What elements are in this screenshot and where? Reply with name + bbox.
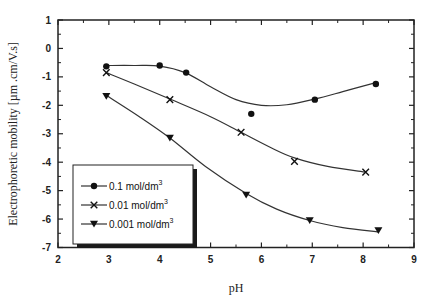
legend-label-superscript: 3 [164,198,168,205]
y-tick-label: -3 [42,128,51,139]
x-axis-title: pH [229,281,244,295]
x-tick-label: 9 [411,254,417,265]
x-marker-icon [103,69,110,76]
circle-marker-icon [103,63,109,69]
circle-marker-icon [91,183,97,189]
fit-curve [106,73,365,173]
circle-marker-icon [183,69,189,75]
x-tick-label: 8 [360,254,366,265]
y-tick-label: 1 [45,15,51,26]
x-tick-label: 5 [208,254,214,265]
series-0 [103,62,379,117]
x-marker-icon [291,158,298,165]
y-tick-label: -1 [42,71,51,82]
circle-marker-icon [157,62,163,68]
legend-label: 0.001 mol/dm3 [109,217,174,230]
circle-marker-icon [373,81,379,87]
y-tick-label: -5 [42,185,51,196]
y-tick-label: -6 [42,214,51,225]
legend-label: 0.1 mol/dm3 [109,179,162,192]
x-tick-label: 2 [55,254,61,265]
electrophoretic-mobility-chart: 23456789 10-1-2-3-4-5-6-7 0.1 mol/dm30.0… [0,0,431,303]
legend-label-superscript: 3 [158,179,162,186]
circle-marker-icon [312,96,318,102]
circle-marker-icon [248,111,254,117]
y-tick-label: -7 [42,242,51,253]
fit-curve [106,65,376,105]
legend-label-superscript: 3 [170,217,174,224]
legend-label: 0.01 mol/dm3 [109,198,168,211]
series-1 [103,69,369,175]
y-tick-label: -2 [42,100,51,111]
x-tick-label: 6 [259,254,265,265]
x-tick-label: 7 [310,254,316,265]
x-tick-label: 4 [157,254,163,265]
y-tick-label: -4 [42,157,51,168]
x-tick-label: 3 [106,254,112,265]
legend: 0.1 mol/dm30.01 mol/dm30.001 mol/dm3 [73,165,197,248]
y-tick-label: 0 [45,43,51,54]
triangle-down-marker-icon [374,227,382,234]
y-axis-title: Electrophoretic mobility [µm .cm/V.s] [6,42,20,226]
x-marker-icon [238,129,245,136]
triangle-down-marker-icon [102,93,110,100]
